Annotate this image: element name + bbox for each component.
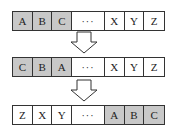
array-cell: Y bbox=[125, 12, 145, 30]
array-cell: C bbox=[13, 58, 33, 76]
array-row-2: C B A ··· X Y Z bbox=[12, 57, 165, 77]
ellipsis-cell: ··· bbox=[72, 12, 105, 30]
array-cell: C bbox=[52, 12, 72, 30]
array-cell: C bbox=[144, 106, 164, 124]
array-row-3: Z X Y ··· A B C bbox=[12, 105, 165, 125]
array-cell: B bbox=[125, 106, 145, 124]
array-cell: Y bbox=[125, 58, 145, 76]
array-cell: X bbox=[105, 58, 125, 76]
ellipsis-cell: ··· bbox=[72, 58, 105, 76]
array-cell: A bbox=[13, 12, 33, 30]
array-cell: Z bbox=[144, 58, 164, 76]
down-arrow-icon bbox=[69, 79, 99, 103]
array-cell: Y bbox=[52, 106, 72, 124]
down-arrow-icon bbox=[69, 31, 99, 55]
ellipsis-cell: ··· bbox=[72, 106, 105, 124]
array-cell: Z bbox=[144, 12, 164, 30]
array-row-1: A B C ··· X Y Z bbox=[12, 11, 165, 31]
array-cell: X bbox=[105, 12, 125, 30]
array-cell: A bbox=[52, 58, 72, 76]
array-cell: X bbox=[33, 106, 53, 124]
array-cell: B bbox=[33, 12, 53, 30]
array-cell: B bbox=[33, 58, 53, 76]
array-cell: Z bbox=[13, 106, 33, 124]
array-cell: A bbox=[105, 106, 125, 124]
